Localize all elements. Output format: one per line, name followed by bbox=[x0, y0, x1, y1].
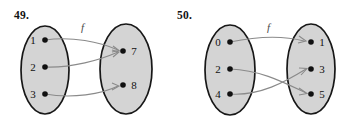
domain-label-1: 1 bbox=[30, 34, 36, 46]
codomain-label-8: 8 bbox=[131, 79, 137, 91]
figure-50: 50. f 0 2 4 1 bbox=[175, 0, 349, 127]
domain-dot-2 bbox=[42, 64, 48, 70]
domain-label-2: 2 bbox=[30, 61, 36, 73]
codomain-label-1: 1 bbox=[319, 36, 325, 48]
function-label-50: f bbox=[267, 21, 272, 33]
codomain-dot-5 bbox=[308, 91, 314, 97]
domain-dot-0 bbox=[227, 39, 233, 45]
codomain-label-5: 5 bbox=[319, 88, 325, 100]
codomain-dot-1 bbox=[308, 39, 314, 45]
figure-number-50: 50. bbox=[177, 9, 192, 21]
domain-label-2: 2 bbox=[215, 63, 221, 75]
figure-number-49: 49. bbox=[14, 9, 29, 21]
codomain-dot-7 bbox=[120, 48, 126, 54]
domain-dot-2 bbox=[227, 66, 233, 72]
codomain-dot-8 bbox=[120, 82, 126, 88]
domain-label-4: 4 bbox=[215, 88, 221, 100]
domain-dot-3 bbox=[42, 91, 48, 97]
domain-dot-4 bbox=[227, 91, 233, 97]
domain-dot-1 bbox=[42, 37, 48, 43]
domain-label-0: 0 bbox=[215, 36, 221, 48]
function-label-49: f bbox=[81, 21, 86, 33]
figure-49: 49. f 1 2 3 7 bbox=[0, 0, 175, 127]
figure-page: 49. f 1 2 3 7 bbox=[0, 0, 349, 127]
figure-50-canvas: f 0 2 4 1 3 5 bbox=[175, 0, 349, 127]
codomain-dot-3 bbox=[308, 66, 314, 72]
codomain-label-3: 3 bbox=[319, 63, 325, 75]
codomain-oval-49 bbox=[100, 24, 152, 114]
domain-label-3: 3 bbox=[30, 88, 36, 100]
codomain-label-7: 7 bbox=[131, 45, 137, 57]
